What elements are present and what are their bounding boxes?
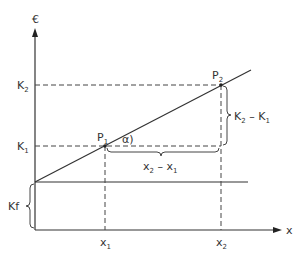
y-axis-arrow-icon [32,28,38,37]
cost-function-diagram: € x K2 K1 Kf x1 x2 P1 P2 α) K2 – K1 x2 –… [0,0,304,256]
k1-label: K1 [17,140,29,155]
delta-k-label: K2 – K1 [234,110,270,125]
p2-label: P2 [212,69,223,84]
x-axis-label: x [286,224,293,237]
kf-label: Kf [8,200,20,213]
p1-label: P1 [97,131,108,146]
delta-x-label: x2 – x1 [143,160,177,175]
x-axis-arrow-icon [273,227,282,233]
y-axis-label: € [32,13,39,26]
x1-label: x1 [100,236,111,251]
alpha-angle-label: α) [122,133,134,146]
k2-label: K2 [17,79,29,94]
x2-label: x2 [216,236,227,251]
delta-k-brace [223,86,231,145]
delta-x-brace [107,148,219,156]
kf-brace [26,184,34,228]
